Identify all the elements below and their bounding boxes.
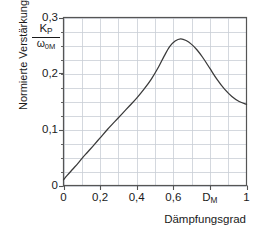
plot-area bbox=[0, 0, 259, 234]
plot-frame bbox=[64, 18, 247, 186]
axis-major-ticks bbox=[59, 19, 248, 191]
chart-figure: Normierte Verstärkung KP ω0M 00,10,20,3 … bbox=[0, 0, 259, 234]
gridlines bbox=[64, 18, 247, 187]
